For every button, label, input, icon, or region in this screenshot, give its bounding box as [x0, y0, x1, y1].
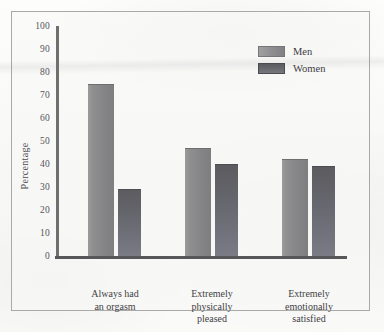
x-category-label-2-line-2: physically — [157, 301, 267, 314]
figure-page: Percentage 100 90 80 70 60 50 40 30 20 1… — [0, 0, 384, 332]
bar-women-extremely-physically-pleased — [215, 164, 238, 256]
y-axis-title: Percentage — [19, 143, 30, 190]
x-category-label-3-line-3: satisfied — [254, 313, 364, 326]
y-tick-50: 50 — [40, 136, 50, 146]
bar-men-extremely-physically-pleased — [185, 148, 211, 256]
legend-label-women: Women — [293, 63, 325, 74]
legend-swatch-men-icon — [258, 46, 285, 57]
x-category-label-2-line-1: Extremely — [157, 288, 267, 301]
legend-item-women: Women — [258, 63, 325, 74]
legend-swatch-women-icon — [258, 63, 285, 74]
bar-women-always-had-an-orgasm — [118, 189, 141, 256]
legend-label-men: Men — [293, 46, 312, 57]
legend-item-men: Men — [258, 46, 325, 57]
x-category-label-3: Extremely emotionally satisfied — [254, 288, 364, 326]
bar-men-always-had-an-orgasm — [88, 84, 114, 257]
y-tick-60: 60 — [40, 113, 50, 123]
y-tick-70: 70 — [40, 90, 50, 100]
y-tick-90: 90 — [40, 44, 50, 54]
x-category-label-3-line-1: Extremely — [254, 288, 364, 301]
x-category-label-1-line-1: Always had — [60, 288, 170, 301]
y-tick-0: 0 — [45, 251, 50, 261]
x-category-label-3-line-2: emotionally — [254, 301, 364, 314]
y-axis-line — [56, 26, 59, 256]
x-axis-line — [55, 256, 347, 259]
bar-women-extremely-emotionally-satisfied — [312, 166, 335, 256]
x-category-label-1: Always had an orgasm — [60, 288, 170, 313]
legend: Men Women — [258, 46, 325, 80]
x-category-label-2-line-3: pleased — [157, 313, 267, 326]
y-tick-10: 10 — [40, 228, 50, 238]
y-tick-100: 100 — [35, 21, 50, 31]
y-tick-30: 30 — [40, 182, 50, 192]
x-category-label-1-line-2: an orgasm — [60, 301, 170, 314]
y-tick-20: 20 — [40, 205, 50, 215]
x-category-label-2: Extremely physically pleased — [157, 288, 267, 326]
bar-men-extremely-emotionally-satisfied — [282, 159, 308, 256]
y-tick-40: 40 — [40, 159, 50, 169]
y-tick-80: 80 — [40, 67, 50, 77]
